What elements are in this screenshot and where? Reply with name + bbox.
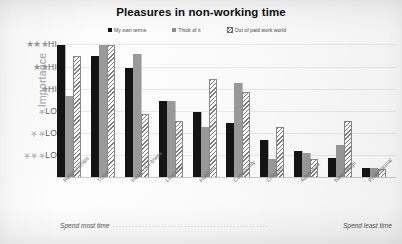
chart-legend: My own terms Thick of it Out of paid wor… <box>108 27 286 33</box>
bar-out <box>107 45 115 178</box>
bar-thick <box>167 101 175 178</box>
legend-swatch-icon <box>227 27 233 33</box>
bar-own <box>260 140 268 178</box>
bar-thick <box>65 96 73 178</box>
legend-swatch-icon <box>172 28 176 32</box>
star-icon: ★ <box>41 84 49 94</box>
y-tick-low: ★LO <box>0 107 57 116</box>
bar-own <box>57 45 65 178</box>
bar-own <box>226 123 234 178</box>
footer-right-label: Spend least time <box>343 222 392 229</box>
y-tick-low: ★★★LO <box>0 151 57 160</box>
legend-item-out-of-paid-work-world: Out of paid work world <box>227 27 287 33</box>
bar-thick <box>234 83 242 178</box>
y-tick-label: LO <box>45 150 57 160</box>
y-tick-high: ★★★HI <box>0 40 57 49</box>
star-icon: ★★ <box>33 62 48 72</box>
footer-left-label: Spend most time <box>60 222 109 229</box>
bar-own <box>193 112 201 178</box>
legend-label: Out of paid work world <box>235 27 287 33</box>
legend-swatch-icon <box>108 28 112 32</box>
bar-thick <box>133 54 141 178</box>
chart-screenshot: Pleasures in non-working time My own ter… <box>0 0 402 244</box>
bar-thick <box>99 45 107 178</box>
y-tick-high: ★★HI <box>0 63 57 72</box>
y-tick-label: HI <box>48 39 57 49</box>
inverted-star-icon: ★ <box>38 107 46 116</box>
bar-group <box>328 41 362 178</box>
bar-group <box>294 41 328 178</box>
y-tick-label: HI <box>48 84 57 94</box>
axis-baseline <box>57 177 396 178</box>
star-icon: ★★★ <box>26 39 49 49</box>
inverted-star-icon: ★★ <box>30 129 45 138</box>
y-tick-low: ★★LO <box>0 129 57 138</box>
y-tick-label: LO <box>45 106 57 116</box>
footer-dot-leader: ........................................… <box>112 222 339 228</box>
inverted-star-icon: ★★★ <box>23 151 46 160</box>
bar-group <box>260 41 294 178</box>
bar-group <box>362 41 396 178</box>
y-tick-label: LO <box>45 128 57 138</box>
bar-own <box>328 158 336 178</box>
bar-own <box>159 101 167 178</box>
bar-group <box>193 41 227 178</box>
bar-own <box>91 56 99 178</box>
bar-group <box>226 41 260 178</box>
plot-area <box>57 41 396 178</box>
bar-groups <box>57 41 396 178</box>
bar-group <box>91 41 125 178</box>
bar-own <box>125 68 133 178</box>
legend-item-my-own-terms: My own terms <box>108 27 146 33</box>
x-axis-labels: RelationshipsTravelHealth & FitnessLearn… <box>57 179 396 219</box>
legend-item-thick-of-it: Thick of it <box>172 27 200 33</box>
legend-label: Thick of it <box>178 27 200 33</box>
footer-scale: Spend most time ........................… <box>60 222 392 229</box>
chart-title: Pleasures in non-working time <box>0 6 402 18</box>
y-tick-label: HI <box>48 62 57 72</box>
y-tick-high: ★HI <box>0 85 57 94</box>
legend-label: My own terms <box>114 27 146 33</box>
bar-group <box>159 41 193 178</box>
bar-own <box>294 151 302 178</box>
